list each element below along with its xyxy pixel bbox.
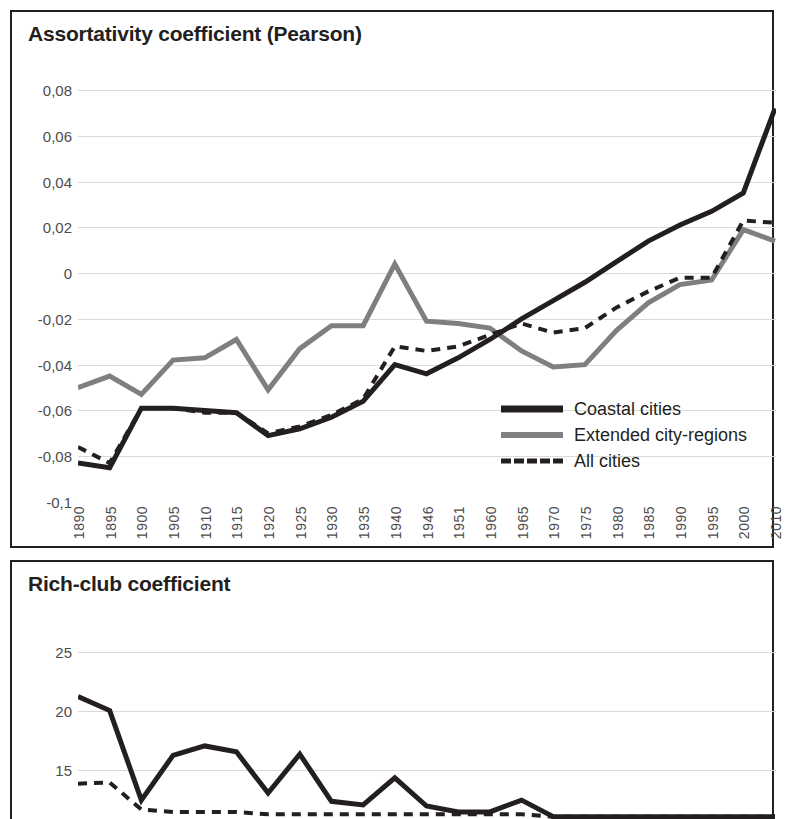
x-axis-tick-label: 1890 (71, 506, 87, 539)
y-axis-tick-label: 0 (64, 265, 72, 282)
series-lines-chart2 (78, 634, 776, 819)
x-axis-tick-label: 1915 (229, 506, 245, 539)
x-axis-tick-label: 1940 (388, 506, 404, 539)
y-axis-tick-label: -0,08 (38, 448, 72, 465)
page-title: Assortativity coefficient (Pearson) (28, 22, 362, 46)
figure-container: Assortativity coefficient (Pearson) 0,08… (0, 0, 786, 819)
legend-line-icon-all-cities (501, 454, 563, 468)
legend-line-icon-extended (501, 428, 563, 442)
chart-panel-assortativity: Assortativity coefficient (Pearson) 0,08… (10, 10, 774, 548)
series-line-extended-city-regions (78, 230, 775, 395)
chart-panel-rich-club: Rich-club coefficient 252015 (10, 560, 774, 819)
y-axis-tick-label: -0,06 (38, 402, 72, 419)
x-axis-tick-label: 1900 (134, 506, 150, 539)
y-axis-tick-label: 0,04 (43, 173, 72, 190)
y-axis-tick-label: -0,04 (38, 356, 72, 373)
y-axis-tick-label: 0,06 (43, 127, 72, 144)
plot-area-chart2 (78, 634, 776, 819)
x-axis-tick-label: 1980 (610, 506, 626, 539)
legend-item-all-cities: All cities (501, 448, 771, 474)
x-axis-tick-label: 1970 (546, 506, 562, 539)
series-line-all-cities (78, 782, 775, 816)
legend-item-coastal-cities: Coastal cities (501, 396, 771, 422)
y-axis-labels-chart1: 0,080,060,040,020-0,02-0,04-0,06-0,08-0,… (18, 90, 72, 502)
x-axis-tick-label: 1985 (641, 506, 657, 539)
x-axis-tick-label: 1990 (673, 506, 689, 539)
legend-label-extended: Extended city-regions (574, 425, 747, 446)
y-axis-tick-label: -0,02 (38, 310, 72, 327)
y-axis-tick-label: 15 (55, 761, 72, 778)
legend-label-all-cities: All cities (574, 451, 640, 472)
chart-legend: Coastal cities Extended city-regions All… (501, 396, 771, 474)
x-axis-tick-label: 1905 (166, 506, 182, 539)
x-axis-tick-label: 1895 (103, 506, 119, 539)
x-axis-tick-label: 1925 (293, 506, 309, 539)
y-axis-tick-label: 0,08 (43, 82, 72, 99)
y-axis-tick-label: 25 (55, 643, 72, 660)
x-axis-tick-label: 2000 (736, 506, 752, 539)
x-axis-tick-label: 1910 (198, 506, 214, 539)
y-axis-tick-label: 0,02 (43, 219, 72, 236)
x-axis-tick-label: 1951 (451, 506, 467, 539)
y-axis-tick-label: -0,1 (46, 494, 72, 511)
legend-line-icon-coastal (501, 402, 563, 416)
x-axis-tick-label: 1965 (515, 506, 531, 539)
y-axis-labels-chart2: 252015 (18, 634, 72, 819)
x-axis-tick-label: 1935 (356, 506, 372, 539)
x-axis-labels-chart1: 1890189519001905191019151920192519301935… (78, 504, 776, 560)
x-axis-tick-label: 1946 (420, 506, 436, 539)
legend-label-coastal: Coastal cities (574, 399, 681, 420)
x-axis-tick-label: 1960 (483, 506, 499, 539)
series-line-coastal-cities (78, 696, 775, 816)
legend-item-extended-city-regions: Extended city-regions (501, 422, 771, 448)
y-axis-tick-label: 20 (55, 702, 72, 719)
x-axis-tick-label: 1920 (261, 506, 277, 539)
x-axis-tick-label: 1975 (578, 506, 594, 539)
x-axis-tick-label: 1995 (705, 506, 721, 539)
page-title-2: Rich-club coefficient (28, 572, 230, 596)
x-axis-tick-label: 1930 (324, 506, 340, 539)
x-axis-tick-label: 2010 (768, 506, 784, 539)
